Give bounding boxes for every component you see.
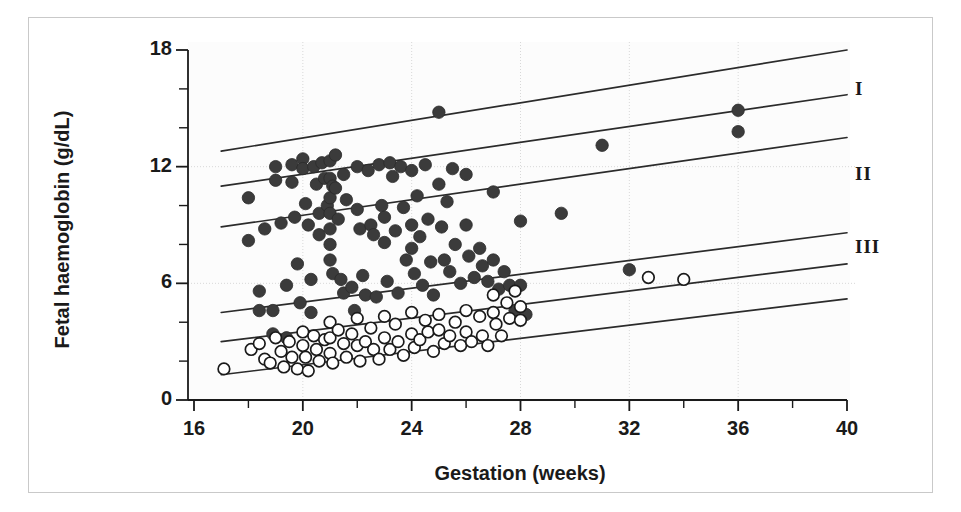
x-tick-label: 24 [382, 417, 442, 440]
data-point-open [338, 338, 350, 350]
x-tick-label: 20 [273, 417, 333, 440]
data-point-open [346, 328, 358, 340]
data-point-open [449, 316, 461, 328]
data-point-filled [425, 256, 437, 268]
x-tick-label: 28 [491, 417, 551, 440]
data-point-filled [359, 289, 371, 301]
data-point-filled [269, 174, 281, 186]
data-point-open [379, 332, 391, 344]
data-point-filled [253, 304, 265, 316]
data-point-filled [460, 219, 472, 231]
data-point-open [379, 311, 391, 323]
data-point-open [428, 346, 440, 358]
data-point-open [270, 332, 282, 344]
data-point-filled [378, 236, 390, 248]
data-point-open [300, 351, 312, 363]
x-axis-title: Gestation (weeks) [320, 462, 720, 485]
data-point-filled [411, 190, 423, 202]
data-point-filled [280, 279, 292, 291]
data-point-open [444, 330, 456, 342]
data-point-open [253, 338, 265, 350]
data-point-filled [269, 160, 281, 172]
data-point-open [308, 330, 320, 342]
data-point-filled [329, 149, 341, 161]
data-point-filled [386, 170, 398, 182]
y-tick-label: 12 [124, 154, 172, 177]
data-point-open [392, 336, 404, 348]
data-point-open [297, 326, 309, 338]
data-point-filled [463, 250, 475, 262]
data-point-filled [389, 225, 401, 237]
data-point-filled [476, 260, 488, 272]
data-point-open [332, 324, 344, 336]
data-point-open [373, 353, 385, 365]
figure-container: 16202428323640181260 I II III Fetal haem… [0, 0, 961, 512]
data-point-filled [732, 104, 744, 116]
y-tick-label: 6 [124, 270, 172, 293]
data-point-open [455, 340, 467, 352]
data-point-filled [623, 264, 635, 276]
data-point-filled [340, 194, 352, 206]
data-point-filled [487, 254, 499, 266]
data-point-filled [305, 273, 317, 285]
data-point-open [275, 346, 287, 358]
data-point-filled [351, 203, 363, 215]
data-point-open [419, 314, 431, 326]
x-tick-label: 36 [708, 417, 768, 440]
data-point-open [390, 318, 402, 330]
data-point-filled [433, 178, 445, 190]
data-point-open [487, 289, 499, 301]
data-point-filled [392, 287, 404, 299]
data-point-filled [414, 230, 426, 242]
data-point-open [327, 357, 339, 369]
data-point-open [313, 355, 325, 367]
data-point-filled [438, 254, 450, 266]
data-point-filled [294, 297, 306, 309]
data-point-filled [313, 229, 325, 241]
data-point-filled [297, 162, 309, 174]
data-point-filled [454, 277, 466, 289]
data-point-open [422, 326, 434, 338]
data-point-filled [291, 258, 303, 270]
data-point-filled [275, 217, 287, 229]
data-point-open [466, 336, 478, 348]
data-point-filled [346, 281, 358, 293]
y-tick-label: 18 [124, 37, 172, 60]
data-point-filled [397, 201, 409, 213]
data-point-open [354, 355, 366, 367]
data-point-filled [324, 223, 336, 235]
data-point-open [311, 344, 323, 356]
data-point-filled [242, 234, 254, 246]
data-point-open [515, 301, 527, 313]
data-point-open [474, 311, 486, 323]
band-label-III: III [855, 236, 880, 258]
data-point-filled [302, 219, 314, 231]
data-point-open [490, 318, 502, 330]
data-point-open [341, 351, 353, 363]
data-point-filled [259, 223, 271, 235]
data-point-filled [405, 242, 417, 254]
data-point-filled [242, 192, 254, 204]
data-point-filled [373, 159, 385, 171]
data-point-filled [408, 267, 420, 279]
data-point-open [302, 365, 314, 377]
y-axis-title: Fetal haemoglobin (g/dL) [51, 80, 74, 380]
data-point-open [487, 307, 499, 319]
data-point-filled [305, 306, 317, 318]
data-point-filled [482, 275, 494, 287]
x-tick-label: 40 [817, 417, 877, 440]
x-tick-label: 32 [599, 417, 659, 440]
data-point-open [406, 307, 418, 319]
data-point-filled [267, 304, 279, 316]
data-point-open [460, 305, 472, 317]
data-point-filled [419, 159, 431, 171]
data-point-filled [299, 197, 311, 209]
data-point-filled [435, 221, 447, 233]
data-point-open [365, 322, 377, 334]
data-point-filled [449, 238, 461, 250]
data-point-filled [288, 211, 300, 223]
data-point-open [433, 309, 445, 321]
data-point-filled [555, 207, 567, 219]
data-point-open [515, 314, 527, 326]
data-point-open [504, 313, 516, 325]
